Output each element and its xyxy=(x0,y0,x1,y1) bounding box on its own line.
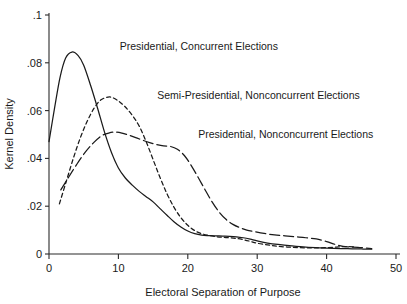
series-curve-3 xyxy=(61,132,372,249)
series-label-3: Presidential, Nonconcurrent Elections xyxy=(198,128,373,140)
x-tick-label: 30 xyxy=(251,262,263,274)
y-axis-title: Kernel Density xyxy=(3,98,15,170)
y-tick-label: .02 xyxy=(27,200,42,212)
x-axis-ticks: 01020304050 xyxy=(46,254,402,274)
y-axis-ticks: .1.08.06.04.020 xyxy=(27,9,49,260)
x-tick-label: 20 xyxy=(182,262,194,274)
x-tick-label: 50 xyxy=(390,262,402,274)
data-curves xyxy=(49,52,372,249)
kernel-density-figure: .1.08.06.04.020 01020304050 Presidential… xyxy=(0,0,407,304)
y-tick-label: .08 xyxy=(27,57,42,69)
series-curve-1 xyxy=(49,52,372,249)
series-label-2: Semi-Presidential, Nonconcurrent Electio… xyxy=(157,89,360,101)
series-label-1: Presidential, Concurrent Elections xyxy=(120,40,278,52)
series-annotations: Presidential, Concurrent ElectionsSemi-P… xyxy=(120,40,374,140)
y-tick-label: 0 xyxy=(36,248,42,260)
series-curve-2 xyxy=(59,97,354,248)
y-tick-label: .06 xyxy=(27,105,42,117)
x-tick-label: 40 xyxy=(320,262,332,274)
x-tick-label: 10 xyxy=(112,262,124,274)
y-tick-label: .04 xyxy=(27,152,42,164)
plot-area: .1.08.06.04.020 01020304050 Presidential… xyxy=(0,0,407,304)
x-axis-title: Electoral Separation of Purpose xyxy=(145,286,300,298)
y-tick-label: .1 xyxy=(33,9,42,21)
x-tick-label: 0 xyxy=(46,262,52,274)
